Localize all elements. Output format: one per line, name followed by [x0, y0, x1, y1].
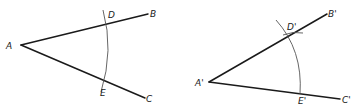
label-e: E [100, 88, 106, 98]
label-e-prime: E' [298, 96, 306, 106]
ray-ab [21, 14, 148, 45]
ray-a-prime-c-prime [209, 82, 340, 99]
ray-a-prime-b-prime [209, 14, 327, 82]
label-b-prime: B' [328, 9, 337, 19]
label-vertex-a: A [5, 41, 12, 51]
label-c: C [146, 94, 153, 104]
label-b: B [150, 9, 156, 19]
label-vertex-a-prime: A' [194, 78, 204, 88]
label-d: D [108, 10, 115, 20]
label-d-prime: D' [287, 22, 296, 32]
copied-angle-figure: A' B' C' D' E' [194, 9, 351, 106]
ray-ac [21, 45, 145, 98]
original-angle-figure: A B C D E [5, 9, 156, 104]
label-c-prime: C' [342, 95, 351, 105]
angle-copy-construction-diagram: A B C D E A' B' C' D' E' [0, 0, 360, 111]
